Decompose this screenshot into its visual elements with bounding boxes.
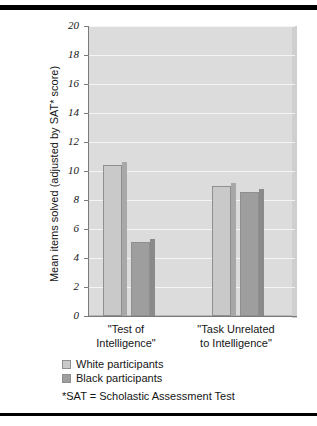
legend-swatch-white-icon	[62, 360, 71, 369]
tick-mark-10	[84, 171, 88, 172]
bar-black-task-unrelated	[240, 192, 259, 316]
tick-mark-16	[84, 84, 88, 85]
category-label-task-unrelated: "Task Unrelated to Intelligence"	[181, 322, 291, 350]
bar-black-task-unrelated-shade	[259, 189, 264, 316]
tick-mark-6	[84, 229, 88, 230]
tick-mark-18	[84, 55, 88, 56]
gridline-14	[89, 113, 295, 114]
bar-black-test-of-intelligence	[131, 242, 150, 316]
category-label-line-2: Intelligence"	[71, 336, 181, 350]
gridline-20	[89, 26, 295, 27]
legend-item-black-participants: Black participants	[62, 371, 163, 385]
category-label-line-1: "Task Unrelated	[181, 322, 291, 336]
legend-label-black-participants: Black participants	[76, 371, 162, 385]
bar-black-test-of-intelligence-shade	[150, 239, 155, 316]
bar-white-task-unrelated	[212, 186, 231, 316]
legend-item-white-participants: White participants	[62, 357, 163, 371]
bar-white-test-of-intelligence	[103, 165, 122, 316]
x-axis-line	[88, 316, 297, 317]
legend-swatch-black-icon	[62, 374, 71, 383]
tick-mark-12	[84, 142, 88, 143]
bar-white-task-unrelated-shade	[231, 183, 236, 316]
legend: White participants Black participants	[62, 357, 163, 385]
category-label-line-1: "Test of	[71, 322, 181, 336]
tick-mark-4	[84, 258, 88, 259]
plot-wall-shadow	[292, 26, 297, 318]
bar-white-test-of-intelligence-shade	[122, 162, 127, 316]
footnote-sat-definition: *SAT = Scholastic Assessment Test	[62, 390, 235, 403]
figure-container: 20 18 16 14 12 10 8 6 4 2 0 Mean items s…	[0, 0, 317, 426]
tick-mark-20	[84, 26, 88, 27]
y-axis-title: Mean items solved (adjusted by SAT* scor…	[48, 29, 60, 319]
category-label-test-of-intelligence: "Test of Intelligence"	[71, 322, 181, 350]
gridline-18	[89, 55, 295, 56]
category-label-line-2: to Intelligence"	[181, 336, 291, 350]
gridline-16	[89, 84, 295, 85]
gridline-12	[89, 142, 295, 143]
legend-label-white-participants: White participants	[76, 357, 163, 371]
bottom-rule	[0, 413, 317, 416]
tick-mark-0	[84, 316, 88, 317]
tick-mark-8	[84, 200, 88, 201]
tick-mark-14	[84, 113, 88, 114]
tick-mark-2	[84, 287, 88, 288]
y-axis-line	[88, 26, 89, 317]
top-rule	[0, 5, 317, 10]
